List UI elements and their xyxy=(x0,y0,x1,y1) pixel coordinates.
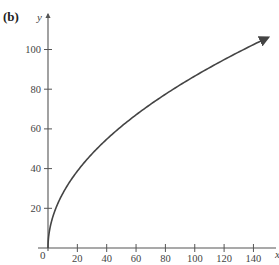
y-tick-label: 60 xyxy=(31,123,42,134)
x-tick-label: 60 xyxy=(131,253,142,264)
y-tick-label: 80 xyxy=(31,84,42,95)
data-curve xyxy=(48,37,268,248)
x-tick-label: 40 xyxy=(101,253,112,264)
ticks: 2040608010012014020406080100 xyxy=(25,44,261,264)
y-tick-label: 40 xyxy=(31,163,42,174)
x-tick-label: 100 xyxy=(187,253,203,264)
x-tick-label: 20 xyxy=(72,253,83,264)
y-tick-label: 20 xyxy=(31,203,42,214)
y-axis-label: y xyxy=(36,11,42,23)
origin-label: 0 xyxy=(40,249,46,261)
x-axis-label: x xyxy=(274,248,279,260)
x-tick-label: 80 xyxy=(160,253,171,264)
x-tick-label: 140 xyxy=(246,253,262,264)
y-tick-label: 100 xyxy=(25,44,41,55)
x-tick-label: 120 xyxy=(216,253,232,264)
chart: 2040608010012014020406080100 y x 0 xyxy=(0,0,279,265)
axes xyxy=(38,14,276,251)
